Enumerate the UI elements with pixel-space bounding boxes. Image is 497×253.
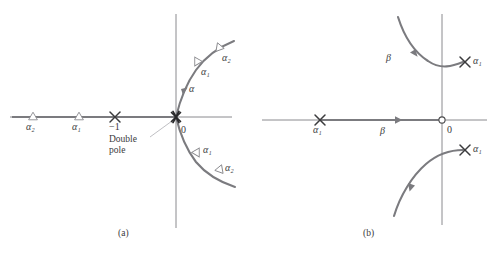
panel-b-label-beta-upper: β <box>386 52 391 63</box>
panel-a-label-alpha-2-left: α₂ <box>26 121 35 132</box>
panel-b-label-zero-origin: 0 <box>447 124 452 135</box>
panel-a-label-alpha-2-upper: α₂ <box>222 52 231 63</box>
panel-a-label-minus-one: −1 <box>109 121 120 132</box>
panel-a-label-alpha-2-lower: α₂ <box>225 162 234 173</box>
double-pole-line-1: Double <box>109 134 137 145</box>
panel-a-label-origin: 0 <box>181 124 186 135</box>
panel-a-label-alpha-1-upper: α₁ <box>201 66 210 77</box>
panel-a-label-alpha-1-lower: α₁ <box>203 144 212 155</box>
panel-b-marker-zero-origin <box>439 117 445 123</box>
panel-a-label-alpha-branch: α <box>189 83 194 94</box>
panel-a-label-alpha-1-left: α₁ <box>72 121 81 132</box>
panel-b-label-alpha-1-real: α₁ <box>313 124 322 135</box>
panel-b-label-alpha-1-lower: α₁ <box>473 143 482 154</box>
root-locus-figure: α₂ α₁ −1 0 α₁ α₂ α₁ α₂ α Double pole α₁ … <box>0 0 497 253</box>
panel-b-label-alpha-1-upper: α₁ <box>473 55 482 66</box>
panel-a-double-pole-annotation: Double pole <box>109 134 137 156</box>
panel-b-caption: (b) <box>363 228 374 238</box>
panel-a-caption: (a) <box>118 228 129 238</box>
double-pole-line-2: pole <box>109 145 137 156</box>
panel-b-label-beta-real: β <box>380 125 385 136</box>
